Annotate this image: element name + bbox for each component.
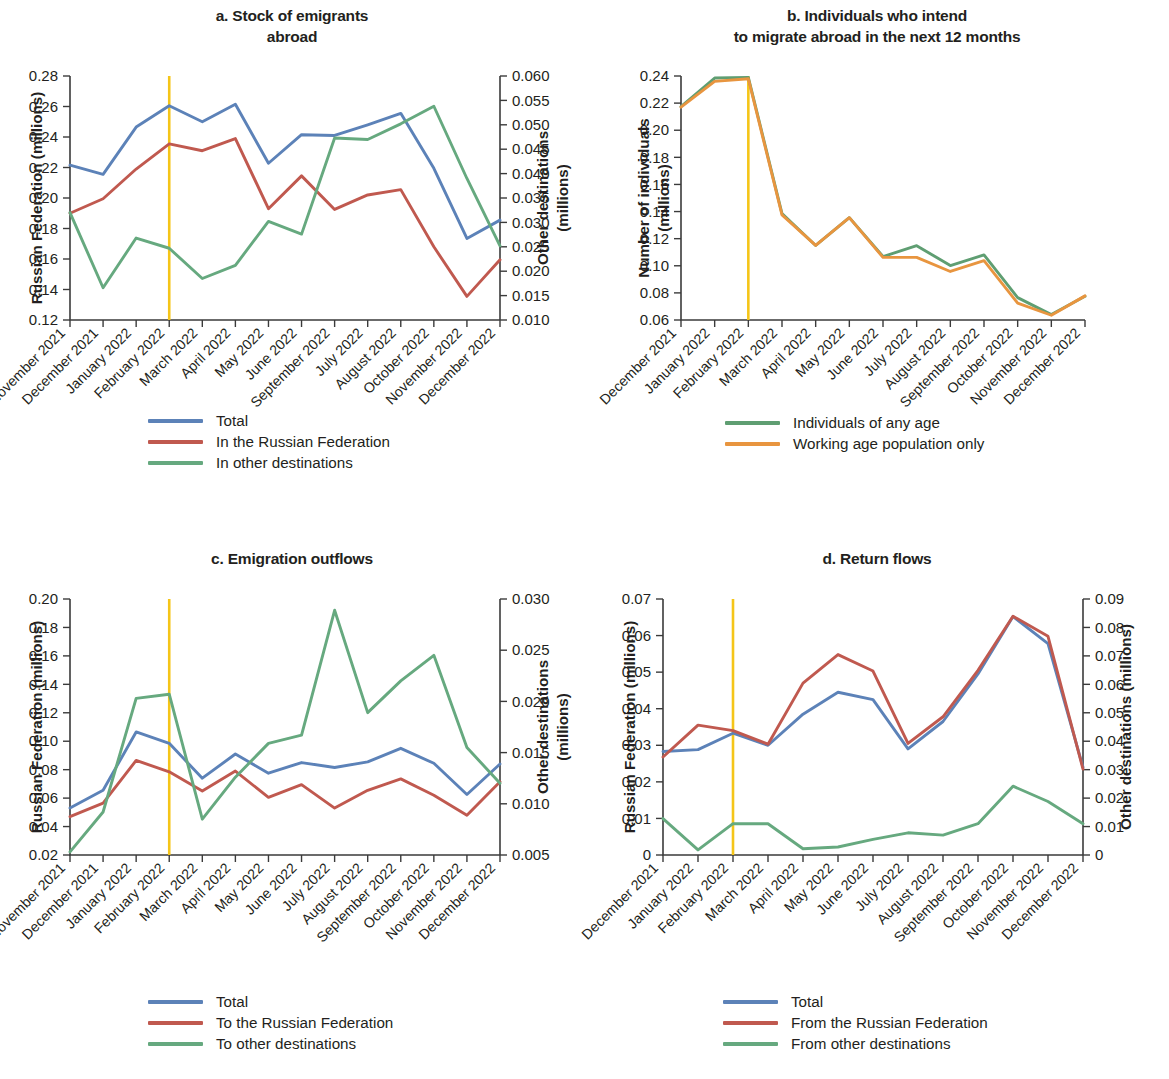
y2-tick-label: 0.010 <box>512 311 550 328</box>
panel-b-title-line-2: to migrate abroad in the next 12 months <box>585 27 1169 48</box>
legend-swatch-other <box>723 1042 778 1046</box>
legend-item: Individuals of any age <box>725 412 984 433</box>
y2-tick-label: 0.060 <box>512 67 550 84</box>
panel-d-plot: 00.010.020.030.040.050.060.0700.010.020.… <box>585 579 1169 979</box>
panel-c-title-line-1: c. Emigration outflows <box>0 549 584 570</box>
y-tick-label: 0.02 <box>29 846 58 863</box>
left-axis-title: (millions) <box>655 164 672 232</box>
y-tick-label: 0.12 <box>29 311 58 328</box>
panel-a-title-line-2: abroad <box>0 27 584 48</box>
y2-tick-label: 0.015 <box>512 287 550 304</box>
legend-label: To other destinations <box>216 1035 356 1052</box>
series-line-in-other-destinations <box>70 106 500 288</box>
right-axis-title: (millions) <box>554 693 571 761</box>
axis-spine <box>681 76 1085 320</box>
legend-swatch-other <box>148 1042 203 1046</box>
legend-label: Individuals of any age <box>793 414 940 431</box>
legend-label: From the Russian Federation <box>791 1014 988 1031</box>
legend-item: From the Russian Federation <box>723 1012 988 1033</box>
y2-tick-label: 0.010 <box>512 795 550 812</box>
panel-a-legend: Total In the Russian Federation In other… <box>148 410 390 473</box>
y2-tick-label: 0.030 <box>512 590 550 607</box>
series-line-from-the-russian-federation <box>663 616 1083 769</box>
legend-swatch-russia <box>723 1021 778 1025</box>
panel-b: b. Individuals who intend to migrate abr… <box>585 0 1169 540</box>
y-tick-label: 0.08 <box>640 284 669 301</box>
y-tick-label: 0.24 <box>640 67 669 84</box>
axis-group: 0.020.040.060.080.100.120.140.160.180.20… <box>0 590 550 945</box>
left-axis-title: Russian Federation (millions) <box>621 621 638 834</box>
legend-item: Total <box>148 991 393 1012</box>
legend-item: To the Russian Federation <box>148 1012 393 1033</box>
panel-b-title: b. Individuals who intend to migrate abr… <box>585 6 1169 48</box>
series-line-working-age-population-only <box>681 79 1085 316</box>
left-axis-title: Russian Federation (millions) <box>28 92 45 305</box>
panel-a-title: a. Stock of emigrants abroad <box>0 6 584 48</box>
panel-c: c. Emigration outflows 0.020.040.060.080… <box>0 539 584 1079</box>
left-axis-title: Number of individuals <box>635 118 652 277</box>
y2-tick-label: 0 <box>1095 846 1103 863</box>
legend-label: In other destinations <box>216 454 353 471</box>
panel-d-legend: Total From the Russian Federation From o… <box>723 991 988 1054</box>
legend-swatch-total <box>148 1000 203 1004</box>
axis-group: 00.010.020.030.040.050.060.0700.010.020.… <box>578 590 1124 945</box>
panel-d-title: d. Return flows <box>585 549 1169 570</box>
y-tick-label: 0.22 <box>640 94 669 111</box>
legend-item: Total <box>723 991 988 1012</box>
series-line-individuals-of-any-age <box>681 77 1085 314</box>
legend-label: In the Russian Federation <box>216 433 390 450</box>
y2-tick-label: 0.09 <box>1095 590 1124 607</box>
series-line-total <box>663 617 1083 768</box>
series-line-to-other-destinations <box>70 610 500 852</box>
panel-a-plot: 0.120.140.160.180.200.220.240.260.280.01… <box>0 58 584 458</box>
y-tick-label: 0.07 <box>622 590 651 607</box>
y2-tick-label: 0.025 <box>512 641 550 658</box>
left-axis-title: Russian Federation (millions) <box>28 621 45 834</box>
legend-item: In the Russian Federation <box>148 431 390 452</box>
right-axis-title: Other destinations <box>534 131 551 265</box>
legend-swatch-other <box>148 461 203 465</box>
panel-b-plot: 0.060.080.100.120.140.160.180.200.220.24… <box>585 58 1169 458</box>
y2-tick-label: 0.050 <box>512 116 550 133</box>
panel-a: a. Stock of emigrants abroad 0.120.140.1… <box>0 0 584 540</box>
axis-spine <box>70 599 500 855</box>
legend-label: Total <box>216 993 248 1010</box>
legend-label: Working age population only <box>793 435 984 452</box>
legend-item: In other destinations <box>148 452 390 473</box>
legend-item: Total <box>148 410 390 431</box>
right-axis-title: Other destinations (millions) <box>1117 624 1134 830</box>
panel-d-title-line-1: d. Return flows <box>585 549 1169 570</box>
legend-label: Total <box>791 993 823 1010</box>
legend-swatch-total <box>148 419 203 423</box>
y2-tick-label: 0.005 <box>512 846 550 863</box>
panel-a-title-line-1: a. Stock of emigrants <box>0 6 584 27</box>
panel-b-title-line-1: b. Individuals who intend <box>585 6 1169 27</box>
panel-b-legend: Individuals of any age Working age popul… <box>725 412 984 454</box>
legend-swatch-russia <box>148 1021 203 1025</box>
legend-item: From other destinations <box>723 1033 988 1054</box>
legend-label: From other destinations <box>791 1035 951 1052</box>
legend-swatch-russia <box>148 440 203 444</box>
legend-label: Total <box>216 412 248 429</box>
y2-tick-label: 0.055 <box>512 92 550 109</box>
y-tick-label: 0.28 <box>29 67 58 84</box>
panel-c-plot: 0.020.040.060.080.100.120.140.160.180.20… <box>0 579 584 979</box>
panel-c-title: c. Emigration outflows <box>0 549 584 570</box>
series-line-in-the-russian-federation <box>70 139 500 297</box>
panel-d: d. Return flows 00.010.020.030.040.050.0… <box>585 539 1169 1079</box>
legend-swatch-any-age <box>725 421 780 425</box>
y-tick-label: 0.06 <box>640 311 669 328</box>
panel-c-legend: Total To the Russian Federation To other… <box>148 991 393 1054</box>
legend-label: To the Russian Federation <box>216 1014 393 1031</box>
axis-group: 0.060.080.100.120.140.160.180.200.220.24… <box>596 67 1085 410</box>
axis-spine <box>663 599 1083 855</box>
right-axis-title: (millions) <box>554 164 571 232</box>
legend-item: Working age population only <box>725 433 984 454</box>
series-line-from-other-destinations <box>663 786 1083 850</box>
figure-root: a. Stock of emigrants abroad 0.120.140.1… <box>0 0 1169 1079</box>
right-axis-title: Other destinations <box>534 660 551 794</box>
legend-swatch-total <box>723 1000 778 1004</box>
legend-item: To other destinations <box>148 1033 393 1054</box>
y-tick-label: 0.20 <box>29 590 58 607</box>
legend-swatch-working-age <box>725 442 780 446</box>
